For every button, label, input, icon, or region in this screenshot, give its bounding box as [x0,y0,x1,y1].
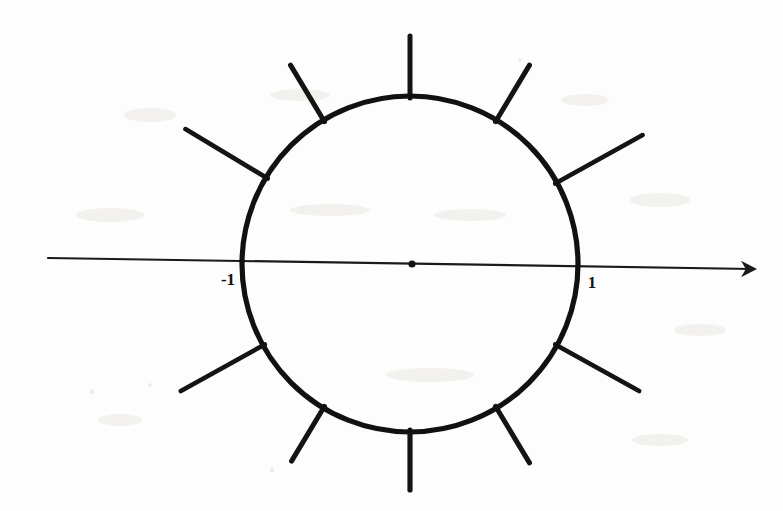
ray-3 [555,135,642,183]
label-positive-one: 1 [588,273,597,292]
horizontal-axis-line [48,258,752,269]
label-negative-one: -1 [221,270,235,289]
ray-2 [495,65,529,122]
origin-point [408,260,415,267]
axis-group [48,258,757,277]
unit-circle-diagram: -1 1 [0,0,783,511]
paper-texture [76,58,726,472]
ray-9 [185,129,267,178]
ray-8 [181,344,265,391]
figure-root: -1 1 [0,0,783,511]
ray-7 [292,406,325,461]
tick-labels-group: -1 1 [221,270,596,292]
ray-5 [495,406,529,463]
ray-4 [555,344,639,391]
